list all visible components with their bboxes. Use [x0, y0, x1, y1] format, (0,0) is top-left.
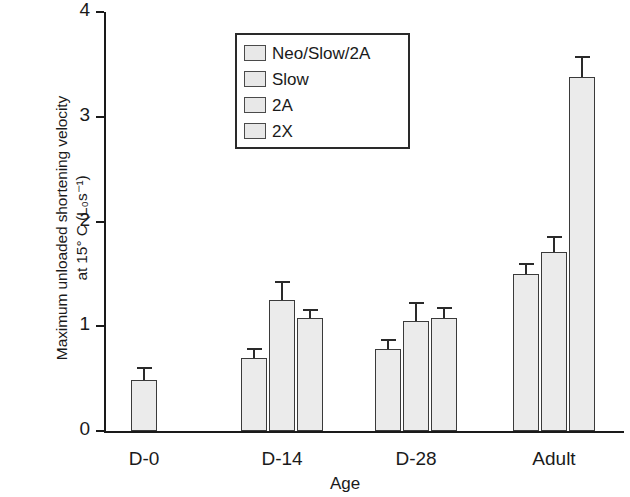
- x-axis-line: [104, 431, 624, 433]
- legend-item: Slow: [244, 66, 408, 92]
- bar: [569, 77, 595, 431]
- error-bar-cap: [519, 263, 534, 265]
- x-axis-category-label: Adult: [494, 448, 614, 470]
- error-bar-cap: [303, 309, 318, 311]
- x-axis-category-label: D-0: [84, 448, 204, 470]
- legend-label: Neo/Slow/2A: [272, 45, 370, 62]
- legend-swatch-icon: [244, 97, 266, 113]
- legend-label: Slow: [272, 71, 309, 88]
- error-bar-stem: [553, 236, 555, 252]
- bar: [431, 318, 457, 431]
- bar: [375, 349, 401, 431]
- bar: [131, 380, 157, 431]
- legend-swatch-icon: [244, 45, 266, 61]
- legend-label: 2X: [272, 123, 293, 140]
- error-bar-cap: [437, 307, 452, 309]
- y-axis-tick: [96, 325, 104, 327]
- bar-chart-figure: Maximum unloaded shortening velocity at …: [0, 0, 630, 497]
- y-axis-tick-label: 1: [50, 313, 90, 335]
- error-bar-stem: [415, 302, 417, 321]
- legend-swatch-icon: [244, 71, 266, 87]
- y-axis-tick-label: 3: [50, 104, 90, 126]
- error-bar-cap: [409, 302, 424, 304]
- bar: [513, 274, 539, 431]
- error-bar-cap: [247, 348, 262, 350]
- bar: [541, 252, 567, 431]
- y-axis-tick: [96, 11, 104, 13]
- x-axis-title-text: Age: [330, 474, 360, 493]
- error-bar-cap: [547, 236, 562, 238]
- legend-swatch-icon: [244, 123, 266, 139]
- x-axis-category-label: D-14: [222, 448, 342, 470]
- legend-item: 2X: [244, 118, 408, 144]
- bar: [297, 318, 323, 431]
- plot-area: D-0D-14D-28Adult Neo/Slow/2A Slow 2A 2X: [104, 12, 624, 432]
- x-axis-title: Age: [0, 474, 630, 494]
- y-axis-tick-label: 0: [50, 418, 90, 440]
- error-bar-stem: [143, 367, 145, 380]
- y-axis-tick-label: 2: [50, 209, 90, 231]
- bar: [241, 358, 267, 431]
- y-axis-tick: [96, 430, 104, 432]
- y-axis-tick: [96, 221, 104, 223]
- error-bar-stem: [581, 56, 583, 77]
- y-axis-tick: [96, 116, 104, 118]
- y-axis-line: [104, 12, 106, 433]
- legend-label: 2A: [272, 97, 293, 114]
- error-bar-cap: [275, 281, 290, 283]
- legend-box: Neo/Slow/2A Slow 2A 2X: [235, 33, 410, 149]
- bar: [403, 321, 429, 431]
- legend-item: Neo/Slow/2A: [244, 40, 408, 66]
- error-bar-cap: [381, 339, 396, 341]
- y-axis-tick-label: 4: [50, 0, 90, 21]
- x-axis-category-label: D-28: [356, 448, 476, 470]
- legend-item: 2A: [244, 92, 408, 118]
- bar: [269, 300, 295, 431]
- error-bar-cap: [575, 56, 590, 58]
- error-bar-cap: [137, 367, 152, 369]
- error-bar-stem: [281, 281, 283, 300]
